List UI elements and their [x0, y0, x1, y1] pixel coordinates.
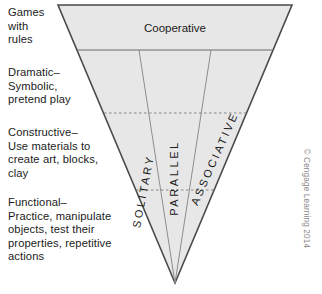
band-label-parallel: PARALLEL — [168, 140, 180, 216]
stage-label-constructive: Constructive– Use materials to create ar… — [8, 126, 128, 180]
play-stages-figure: Cooperative SOLITARY PARALLEL ASSOCIATIV… — [0, 0, 322, 294]
copyright-credit: © Cengage Learning 2014 — [302, 149, 311, 245]
stage-label-dramatic-symbolic: Dramatic– Symbolic, pretend play — [8, 66, 86, 107]
stage-label-functional: Functional– Practice, manipulate objects… — [8, 196, 148, 264]
stage-label-games-with-rules: Games with rules — [8, 6, 72, 47]
band-label-cooperative: Cooperative — [144, 22, 206, 34]
